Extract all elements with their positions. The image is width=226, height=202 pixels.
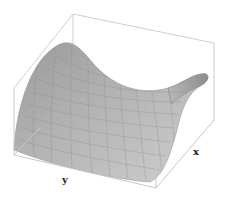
surface-plot <box>0 0 226 202</box>
x-axis-label: x <box>193 147 199 157</box>
y-axis-label: y <box>62 175 68 185</box>
